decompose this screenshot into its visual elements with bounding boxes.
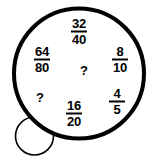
fraction-denominator: 10 (112, 60, 128, 74)
question-mark: ? (36, 90, 44, 105)
fraction-numerator: 32 (71, 17, 87, 31)
fraction-numerator: 16 (66, 99, 82, 113)
fraction-numerator: 4 (112, 87, 121, 101)
fraction-denominator: 80 (34, 60, 50, 74)
fraction: 3240 (71, 17, 87, 46)
question-mark: ? (80, 63, 88, 78)
fraction-64-80: 6480 (34, 43, 50, 74)
fraction-denominator: 5 (112, 102, 121, 116)
fraction-denominator: 20 (66, 114, 82, 128)
fraction-32-40: 3240 (71, 15, 87, 46)
thought-bubble-figure: 32406480810??162045 (0, 0, 156, 158)
bubble-contents: 32406480810??162045 (0, 0, 156, 158)
fraction: 45 (109, 87, 125, 116)
question-mark-center: ? (80, 62, 88, 78)
fraction: 810 (112, 45, 128, 74)
fraction: 6480 (34, 45, 50, 74)
fraction-numerator: 64 (34, 45, 50, 59)
fraction-4-5: 45 (109, 85, 125, 116)
question-mark-left: ? (36, 89, 44, 105)
fraction: 1620 (66, 99, 82, 128)
fraction-numerator: 8 (115, 45, 124, 59)
fraction-8-10: 810 (112, 43, 128, 74)
fraction-denominator: 40 (71, 32, 87, 46)
fraction-16-20: 1620 (66, 97, 82, 128)
